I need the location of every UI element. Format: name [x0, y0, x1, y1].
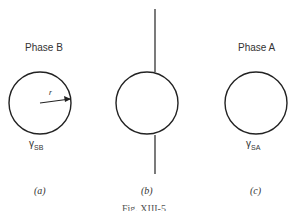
phase-a-label: Phase A — [238, 42, 275, 53]
phase-b-label: Phase B — [25, 42, 63, 53]
gamma-sa-label: γSA — [246, 138, 260, 151]
gamma-subscript: SA — [251, 144, 260, 151]
radius-label: r — [49, 88, 52, 97]
diagram-canvas — [0, 0, 296, 211]
figure-caption: Fig. XIII-5 — [122, 203, 166, 211]
gamma-sb-label: γSB — [29, 138, 43, 151]
caption-c: (c) — [250, 185, 261, 196]
caption-a: (a) — [34, 185, 46, 196]
gamma-subscript: SB — [34, 144, 43, 151]
circle-center — [116, 72, 178, 134]
caption-b: (b) — [141, 185, 153, 196]
circle-phase-a — [225, 72, 287, 134]
